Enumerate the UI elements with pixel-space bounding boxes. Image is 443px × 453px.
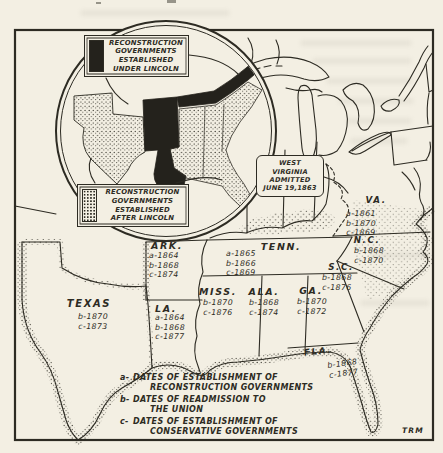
state-dates-georgia: b-1870c-1872	[297, 297, 327, 316]
inset-under-lincoln-line: UNDER LINCOLN	[108, 65, 184, 74]
state-dates-mississippi: b-1870c-1876	[203, 298, 233, 317]
state-label-virginia: VA.	[365, 195, 386, 205]
state-dates-virginia: a-1861b-1870c-1869	[346, 209, 376, 238]
black-swatch	[89, 40, 104, 72]
inset-after-lincoln-line: ESTABLISHED	[101, 206, 184, 215]
legend-key: c-	[120, 417, 133, 427]
inset-label-under-lincoln: RECONSTRUCTION GOVERNMENTS ESTABLISHED U…	[84, 35, 189, 77]
legend-key: b-	[120, 395, 133, 405]
legend-item-a: a-DATES OF ESTABLISHMENT OF RECONSTRUCTI…	[120, 373, 314, 393]
west-virginia-callout: WEST VIRGINIA ADMITTED JUNE 19,1863	[256, 155, 324, 197]
inset-label-after-lincoln: RECONSTRUCTION GOVERNMENTS ESTABLISHED A…	[77, 184, 189, 227]
state-dates-alabama: b-1868c-1874	[249, 298, 279, 317]
inset-after-lincoln-line: GOVERNMENTS	[101, 197, 184, 206]
map-legend: a-DATES OF ESTABLISHMENT OF RECONSTRUCTI…	[120, 373, 314, 440]
wv-callout-line: VIRGINIA	[257, 168, 323, 176]
state-dates-tennessee: a-1865b-1866c-1869	[226, 249, 256, 278]
state-label-georgia: GA.	[299, 285, 323, 296]
state-dates-louisiana: a-1864b-1868c-1877	[155, 313, 185, 342]
state-dates-south-carolina: b-1868c-1876	[322, 273, 352, 292]
inset-under-lincoln-line: GOVERNMENTS	[108, 47, 184, 56]
legend-key: a-	[120, 373, 133, 383]
wv-callout-line: JUNE 19,1863	[257, 184, 323, 192]
state-label-alabama: ALA.	[249, 286, 280, 297]
state-label-mississippi: MISS.	[199, 286, 237, 297]
inset-under-lincoln-line: ESTABLISHED	[108, 56, 184, 65]
legend-item-c: c-DATES OF ESTABLISHMENT OF CONSERVATIVE…	[120, 417, 314, 437]
inset-after-lincoln-line: RECONSTRUCTION	[101, 188, 184, 197]
wv-leader-line	[324, 177, 348, 193]
state-label-texas: TEXAS	[67, 298, 111, 309]
state-label-south-carolina: S.C.	[328, 262, 354, 272]
scanned-book-page: RECONSTRUCTION GOVERNMENTS ESTABLISHED U…	[0, 0, 443, 453]
state-dates-arkansas: a-1864b-1868c-1874	[149, 251, 179, 280]
state-dates-texas: b-1870c-1873	[78, 312, 108, 331]
inset-after-lincoln-line: AFTER LINCOLN	[101, 214, 184, 223]
state-label-tennessee: TENN.	[261, 241, 301, 252]
legend-item-b: b-DATES OF READMISSION TO THE UNION	[120, 395, 314, 415]
inset-under-lincoln-line: RECONSTRUCTION	[108, 39, 184, 48]
stipple-swatch	[82, 189, 97, 222]
wv-callout-line: WEST	[257, 159, 323, 167]
wv-callout-line: ADMITTED	[257, 176, 323, 184]
cartographer-signature: TRM	[402, 426, 424, 435]
state-label-arkansas: ARK.	[151, 240, 183, 251]
state-dates-north-carolina: b-1868c-1870	[354, 246, 384, 265]
